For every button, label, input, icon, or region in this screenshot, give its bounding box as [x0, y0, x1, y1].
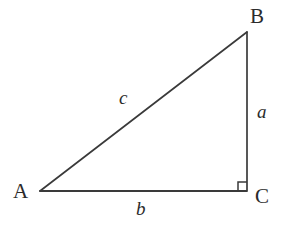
side-label-a: a — [257, 102, 267, 121]
right-triangle-figure: A B C c a b — [0, 0, 287, 228]
side-label-c: c — [119, 88, 127, 107]
right-angle-marker-icon — [238, 182, 247, 191]
vertex-label-c: C — [255, 186, 269, 207]
vertex-label-b: B — [250, 6, 264, 27]
triangle-drawing — [0, 0, 287, 228]
vertex-label-a: A — [13, 181, 28, 202]
side-label-b: b — [136, 199, 146, 218]
side-c-segment — [40, 32, 247, 191]
